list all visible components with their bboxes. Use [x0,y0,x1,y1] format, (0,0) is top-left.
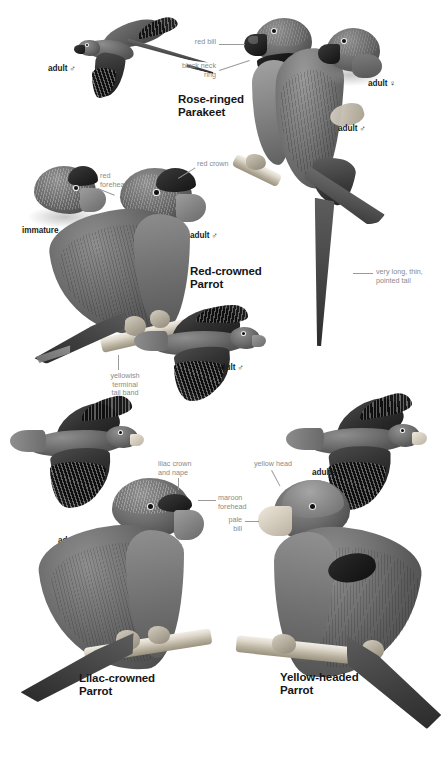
rose-ringed-parakeet-female-age-label: adult ♀ [368,79,396,88]
tail [346,632,441,731]
tail-long-pointed [307,198,334,347]
foot [246,154,266,170]
upper-wing-primaries [196,305,248,323]
upper-wing-primaries [79,394,134,423]
pointed-tail-leader [353,273,373,274]
red-crowned-parrot-name: Red-crowned Parrot [190,265,262,291]
yellow-headed-parrot-flight-age-label: adults [312,468,336,477]
eye [342,39,346,43]
red-crowned-parrot-flight-age-label: adult ♂ [216,363,244,372]
foot [272,634,296,654]
tail [10,430,46,452]
black-neck-ring-label: black neck ring [168,62,216,79]
rose-ringed-parakeet-perched-age-label: adult ♂ [338,124,366,133]
bill [176,194,206,222]
tail [134,331,168,351]
bill [412,432,427,445]
bill [318,44,340,64]
tail [286,428,324,450]
eye [310,504,315,509]
yellow-head-label: yellow head [254,460,308,469]
bill [130,434,144,446]
yellow-headed-parrot-name: Yellow-headed Parrot [280,671,359,697]
pale-bill-label: pale bill [214,516,242,533]
red-crowned-parrot-flight-figure [148,305,274,401]
nape [352,54,382,78]
bill [258,506,292,536]
red-crowned-parrot-perched-age-label: adult ♂ [190,231,218,240]
lilac-crown-and-nape-label: lilac crown and nape [158,460,210,477]
field-guide-plate: adult ♂ adult ♀ adu [0,0,445,766]
rose-ringed-parakeet-name: Rose-ringed Parakeet [178,93,244,119]
foot-2 [148,626,170,644]
bill-highlight [248,36,258,44]
bill [74,45,85,54]
tail-band-leader [118,355,119,370]
rose-ringed-parakeet-flight-figure [74,20,209,95]
lilac-crown-leader [178,478,179,490]
eye [148,504,153,509]
bill [174,510,204,540]
yellowish-terminal-tail-band-label: yellowish terminal tail band [101,372,149,398]
pale-bill-leader [245,521,259,522]
red-bill-label: red bill [172,38,216,47]
red-bill-leader [219,44,245,45]
eye [154,190,159,195]
red-crown-label: red crown [197,160,243,169]
lilac-crowned-parrot-name: Lilac-crowned Parrot [79,672,155,698]
lower-wing-primaries [92,68,116,98]
bill [252,335,266,347]
pointed-tail-label: very long, thin, pointed tail [376,268,442,285]
rose-ringed-parakeet-flight-age-label: adult ♂ [48,64,76,73]
maroon-forehead-leader [198,500,216,501]
